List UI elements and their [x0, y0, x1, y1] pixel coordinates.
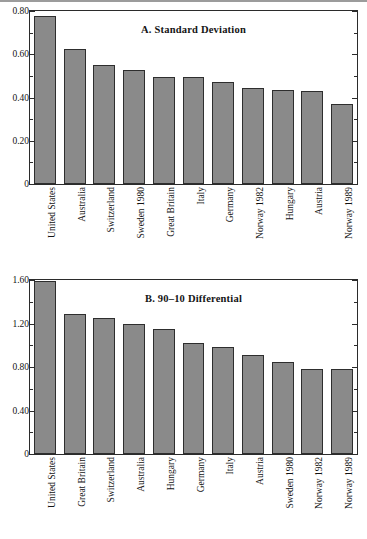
bars-panel-a — [30, 11, 357, 184]
bar — [331, 369, 353, 454]
x-tick-label: Australia — [78, 187, 88, 222]
x-tick-label: Norway 1989 — [345, 187, 355, 239]
y-tick-minor — [30, 389, 33, 390]
bar — [64, 49, 86, 184]
y-tick-label: 1.20 — [2, 319, 29, 329]
x-tick-label: United States — [48, 187, 58, 238]
bar — [34, 16, 56, 184]
y-tick-label: 0 — [2, 179, 29, 189]
y-tick-label: 0.80 — [2, 6, 29, 16]
y-tick-minor-right — [354, 345, 357, 346]
y-tick-label: 0.20 — [2, 136, 29, 146]
chart-panel-a: 00.200.400.600.80 A. Standard Deviation … — [0, 0, 367, 270]
bar — [123, 70, 145, 184]
bar — [212, 347, 234, 454]
bar — [93, 65, 115, 184]
bar — [331, 104, 353, 184]
x-tick-label: Austria — [315, 187, 325, 215]
y-tick-minor-right — [354, 389, 357, 390]
y-tick-major-right — [352, 411, 357, 412]
x-tick-label: Sweden 1980 — [137, 187, 147, 238]
y-tick-label: 1.60 — [2, 275, 29, 285]
bar — [153, 77, 175, 184]
bar — [183, 343, 205, 454]
chart-panel-b: 00.400.801.201.60 B. 90–10 Differential … — [0, 269, 367, 539]
y-tick-minor-right — [354, 119, 357, 120]
y-tick-label: 0.80 — [2, 362, 29, 372]
x-tick-label: Hungary — [167, 457, 177, 490]
y-tick-minor-right — [354, 162, 357, 163]
y-tick-minor — [30, 302, 33, 303]
y-tick-minor — [30, 76, 33, 77]
y-tick-major — [30, 454, 35, 455]
bar — [123, 324, 145, 454]
y-tick-minor — [30, 345, 33, 346]
y-tick-minor-right — [354, 33, 357, 34]
y-tick-minor-right — [354, 76, 357, 77]
y-tick-major-right — [352, 367, 357, 368]
y-tick-label: 0.40 — [2, 93, 29, 103]
y-axis-panel-a: 00.200.400.600.80 — [0, 0, 29, 270]
bar — [93, 318, 115, 454]
bar — [301, 91, 323, 184]
x-tick-label: Switzerland — [107, 187, 117, 232]
y-tick-major — [30, 54, 35, 55]
x-tick-label: Norway 1989 — [345, 457, 355, 509]
y-tick-minor-right — [354, 302, 357, 303]
y-tick-major-right — [352, 454, 357, 455]
x-tick-label: Sweden 1980 — [286, 457, 296, 508]
x-axis-labels-panel-a: United StatesAustraliaSwitzerlandSweden … — [29, 187, 358, 269]
x-tick-label: Germany — [197, 457, 207, 492]
y-tick-major — [30, 367, 35, 368]
x-axis-labels-panel-b: United StatesGreat BritainSwitzerlandAus… — [29, 457, 358, 539]
y-axis-panel-b: 00.400.801.201.60 — [0, 269, 29, 539]
x-tick-label: United States — [48, 457, 58, 508]
y-tick-label: 0.60 — [2, 49, 29, 59]
y-tick-minor — [30, 162, 33, 163]
x-tick-label: Italy — [197, 187, 207, 204]
x-tick-label: Hungary — [286, 187, 296, 220]
y-tick-major-right — [352, 11, 357, 12]
y-tick-minor — [30, 33, 33, 34]
x-tick-label: Germany — [226, 187, 236, 222]
bar — [153, 329, 175, 454]
bar — [64, 314, 86, 454]
y-tick-major-right — [352, 324, 357, 325]
y-tick-minor-right — [354, 432, 357, 433]
plot-frame-panel-b: B. 90–10 Differential — [29, 279, 358, 455]
x-tick-label: Italy — [226, 457, 236, 474]
bar — [34, 281, 56, 454]
x-tick-label: Austria — [256, 457, 266, 485]
x-tick-label: Norway 1982 — [256, 187, 266, 239]
y-tick-major — [30, 280, 35, 281]
y-tick-minor — [30, 432, 33, 433]
y-tick-minor — [30, 119, 33, 120]
x-tick-label: Great Britain — [167, 187, 177, 237]
bar — [301, 369, 323, 454]
y-tick-major-right — [352, 98, 357, 99]
y-tick-major-right — [352, 184, 357, 185]
bar — [272, 90, 294, 184]
bar — [272, 362, 294, 454]
y-tick-major — [30, 411, 35, 412]
y-tick-label: 0.40 — [2, 406, 29, 416]
bar — [183, 77, 205, 184]
x-tick-label: Switzerland — [107, 457, 117, 502]
bar — [212, 82, 234, 184]
y-tick-major — [30, 141, 35, 142]
bar — [242, 355, 264, 455]
y-tick-major — [30, 184, 35, 185]
bar — [242, 88, 264, 184]
y-tick-major — [30, 324, 35, 325]
bars-panel-b — [30, 280, 357, 454]
y-tick-major-right — [352, 54, 357, 55]
x-tick-label: Australia — [137, 457, 147, 492]
y-tick-major — [30, 98, 35, 99]
x-tick-label: Norway 1982 — [315, 457, 325, 509]
x-tick-label: Great Britain — [78, 457, 88, 507]
y-tick-major-right — [352, 141, 357, 142]
plot-frame-panel-a: A. Standard Deviation — [29, 10, 358, 185]
y-tick-label: 0 — [2, 449, 29, 459]
y-tick-major-right — [352, 280, 357, 281]
y-tick-major — [30, 11, 35, 12]
